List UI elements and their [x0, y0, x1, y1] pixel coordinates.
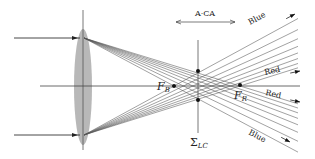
refracted-ray-fan [84, 18, 298, 152]
refracted-ray [84, 39, 298, 135]
ray-label-red: Red [265, 88, 282, 100]
arrowhead-icon [290, 14, 295, 18]
arrow-right-icon [72, 36, 78, 40]
red-focal-point [238, 83, 242, 87]
arrowhead-icon [295, 99, 300, 103]
least-confusion-dot [196, 69, 200, 73]
ray-label-red: Red [264, 65, 281, 77]
arrowhead-icon [295, 70, 300, 74]
aca-double-arrow [176, 20, 235, 24]
ray-label-blue: Blue [247, 128, 268, 145]
blue-focal-label: FB [156, 80, 170, 94]
least-confusion-label: ΣLC [190, 136, 208, 150]
refracted-ray [84, 38, 298, 125]
refracted-ray [84, 38, 298, 132]
refracted-ray [84, 30, 298, 135]
incident-rays [14, 36, 80, 137]
least-confusion-dot [196, 98, 200, 102]
aca-label: A·CA [194, 9, 215, 18]
ray-label-blue: Blue [247, 10, 268, 27]
chromatic-aberration-diagram: FB FR ΣLC A·CA BlueRedRedBlue [0, 0, 315, 159]
arrowhead-icon [285, 138, 290, 142]
ray-color-labels: BlueRedRedBlue [247, 10, 300, 144]
blue-focal-point [172, 84, 176, 88]
refracted-ray [84, 38, 298, 118]
arrow-right-icon [72, 133, 78, 137]
